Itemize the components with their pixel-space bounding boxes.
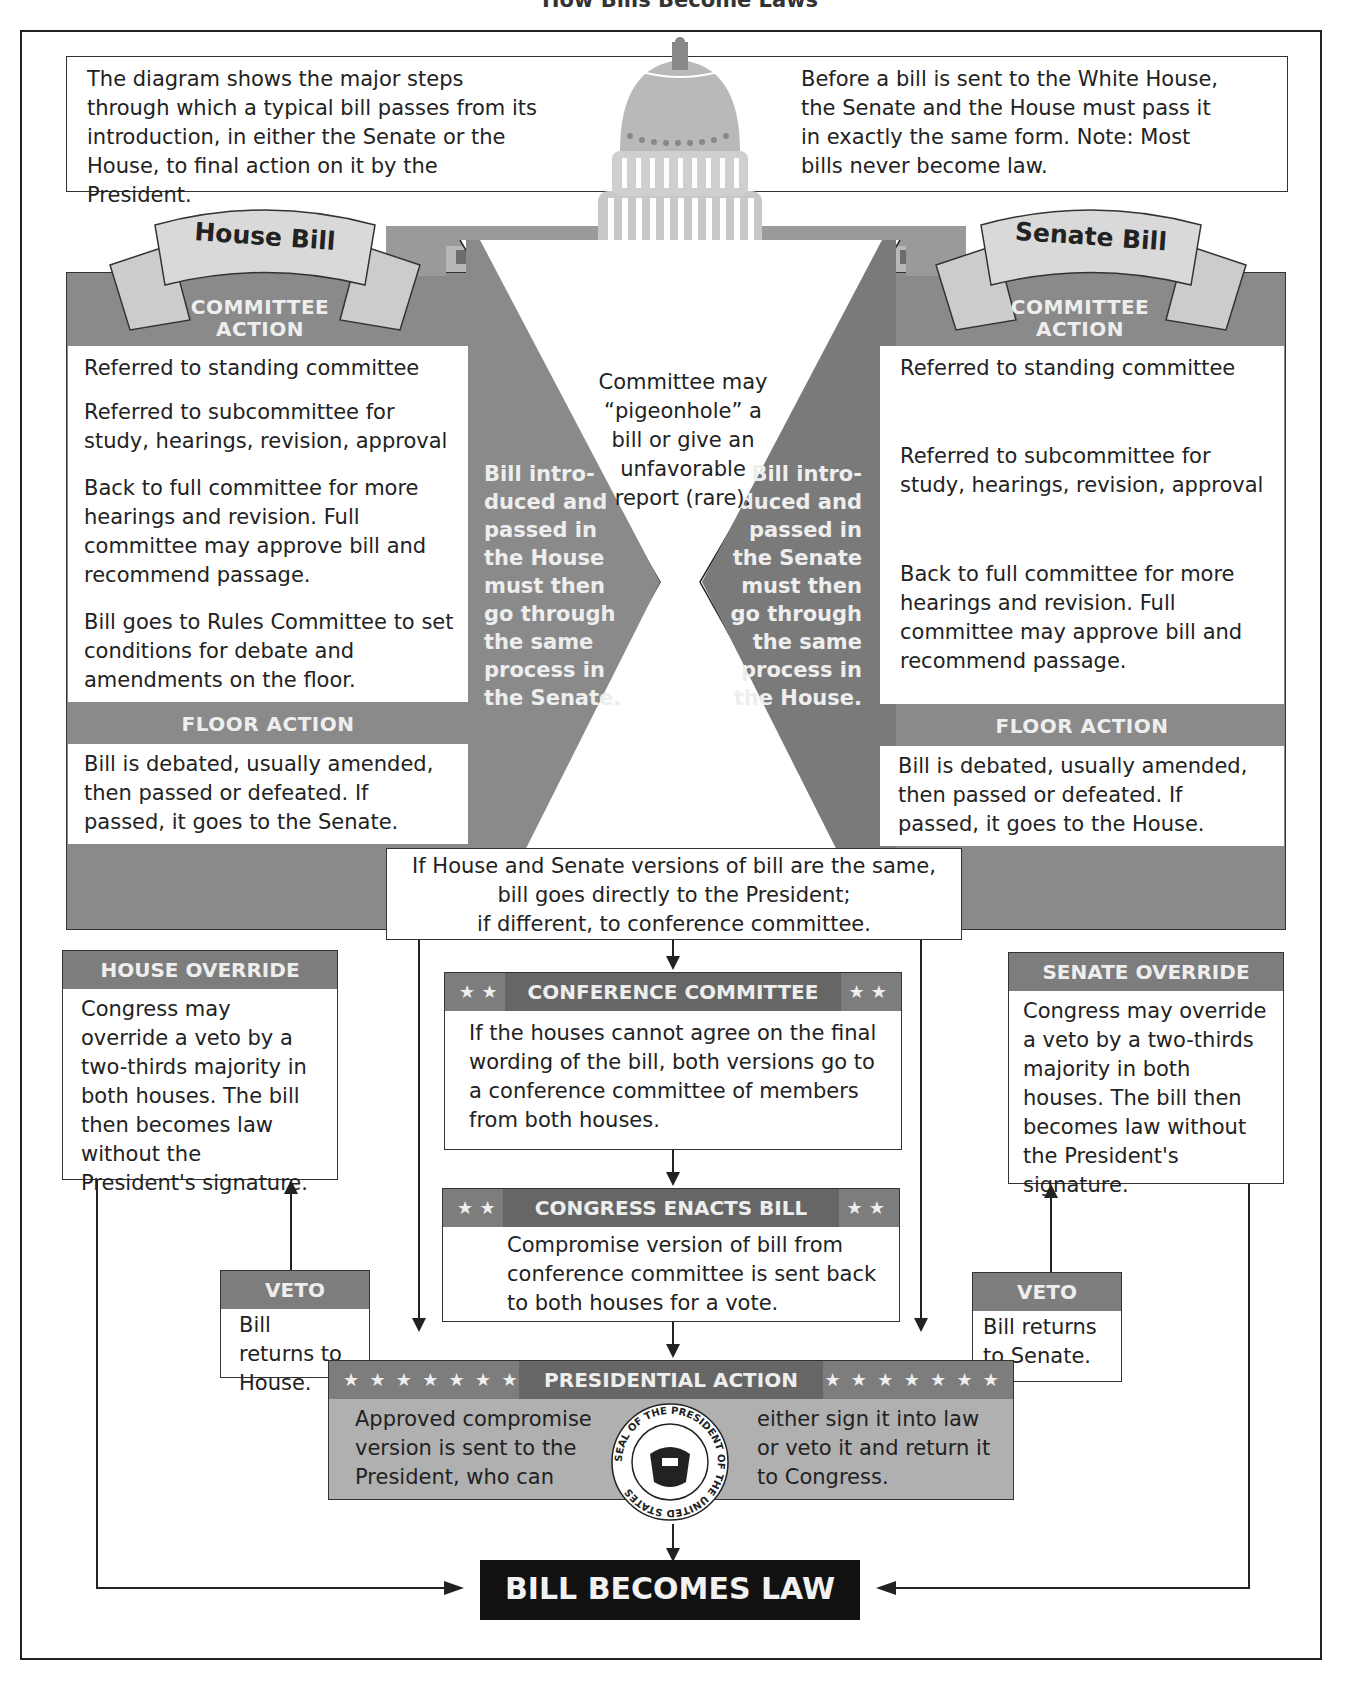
house-override-header: HOUSE OVERRIDE	[63, 951, 337, 989]
senate-step-2: Referred to subcommittee for study, hear…	[900, 442, 1270, 500]
versions-note-line1: If House and Senate versions of bill are…	[387, 852, 961, 881]
conference-committee-header: CONFERENCE COMMITTEE	[528, 980, 819, 1004]
stars-icon: ★ ★ ★ ★ ★ ★ ★	[343, 1361, 520, 1399]
connector-to-final	[672, 1524, 674, 1550]
conference-committee-box: ★ ★ CONFERENCE COMMITTEE ★ ★ If the hous…	[444, 972, 902, 1150]
house-step-4: Bill goes to Rules Committee to set cond…	[84, 608, 459, 695]
house-veto-header: VETO	[221, 1271, 369, 1309]
presidential-seal-icon: SEAL OF THE PRESIDENT OF THE UNITED STAT…	[608, 1400, 732, 1524]
conference-committee-text: If the houses cannot agree on the final …	[469, 1019, 889, 1135]
arrow-down-icon	[666, 1172, 680, 1186]
pigeonhole-note: Committee may “pigeonhole” a bill or giv…	[588, 368, 778, 513]
arrow-right-icon	[444, 1581, 464, 1595]
congress-enacts-box: ★ ★ CONGRESS ENACTS BILL ★ ★ Compromise …	[442, 1188, 900, 1322]
stars-icon: ★ ★ ★ ★ ★ ★ ★	[824, 1361, 1001, 1399]
senate-floor-text: Bill is debated, usually amended, then p…	[880, 746, 1284, 846]
arrow-up-icon	[1044, 1184, 1058, 1198]
presidential-action-header: PRESIDENTIAL ACTION	[544, 1368, 798, 1392]
conference-committee-header-bar: ★ ★ CONFERENCE COMMITTEE ★ ★	[445, 973, 901, 1011]
congress-enacts-header: CONGRESS ENACTS BILL	[535, 1196, 808, 1220]
senate-committee-header-line2: ACTION	[980, 318, 1180, 340]
house-committee-header-line2: ACTION	[160, 318, 360, 340]
senate-floor-header: FLOOR ACTION	[880, 714, 1284, 738]
stars-icon: ★ ★	[457, 1189, 496, 1227]
senate-override-text: Congress may override a veto by a two-th…	[1009, 991, 1283, 1206]
connector-veto-to-override	[1050, 1198, 1052, 1274]
versions-note: If House and Senate versions of bill are…	[386, 848, 962, 940]
connector-house-override-to-law	[96, 1180, 98, 1588]
connector-senate-override-to-law-h	[896, 1587, 1250, 1589]
house-floor-header: FLOOR ACTION	[68, 712, 468, 736]
senate-veto-header: VETO	[973, 1273, 1121, 1311]
versions-note-line3: if different, to conference committee.	[387, 910, 961, 939]
house-committee-header: COMMITTEE ACTION	[160, 296, 360, 340]
stars-icon: ★ ★	[848, 973, 887, 1011]
senate-step-1: Referred to standing committee	[900, 354, 1270, 383]
capitol-foreground	[380, 36, 980, 356]
connector-to-enacts	[672, 1150, 674, 1174]
presidential-action-header-bar: ★ ★ ★ ★ ★ ★ ★ PRESIDENTIAL ACTION ★ ★ ★ …	[329, 1361, 1013, 1399]
senate-committee-header: COMMITTEE ACTION	[980, 296, 1180, 340]
arrow-down-icon	[666, 1344, 680, 1358]
senate-committee-steps: Referred to standing committee Referred …	[880, 346, 1284, 704]
stars-icon: ★ ★	[459, 973, 498, 1011]
connector-left-to-president	[418, 940, 420, 1320]
stars-icon: ★ ★	[846, 1189, 885, 1227]
senate-step-3: Back to full committee for more hearings…	[900, 560, 1270, 676]
presidential-left-text: Approved compromise version is sent to t…	[355, 1405, 605, 1492]
connector-right-to-president	[920, 940, 922, 1320]
senate-override-box: SENATE OVERRIDE Congress may override a …	[1008, 952, 1284, 1184]
house-floor-text: Bill is debated, usually amended, then p…	[68, 744, 468, 844]
bill-becomes-law: BILL BECOMES LAW	[480, 1560, 860, 1620]
house-committee-header-line1: COMMITTEE	[160, 296, 360, 318]
diagram-title: How Bills Become Laws	[0, 0, 1360, 12]
house-step-1: Referred to standing committee	[84, 354, 459, 383]
connector-to-presidential	[672, 1322, 674, 1346]
connector-senate-override-to-law	[1248, 1184, 1250, 1588]
arrow-down-icon	[914, 1318, 928, 1332]
arrow-down-icon	[666, 956, 680, 970]
house-override-box: HOUSE OVERRIDE Congress may override a v…	[62, 950, 338, 1180]
house-override-text: Congress may override a veto by a two-th…	[63, 989, 337, 1204]
presidential-right-text: either sign it into law or veto it and r…	[757, 1405, 1007, 1492]
arrow-down-icon	[412, 1318, 426, 1332]
versions-note-line2: bill goes directly to the President;	[387, 881, 961, 910]
house-committee-steps: Referred to standing committee Referred …	[68, 346, 468, 702]
congress-enacts-text: Compromise version of bill from conferen…	[507, 1231, 887, 1318]
house-step-3: Back to full committee for more hearings…	[84, 474, 459, 590]
arrow-up-icon	[284, 1180, 298, 1194]
connector-house-override-to-law-h	[96, 1587, 446, 1589]
house-step-2: Referred to subcommittee for study, hear…	[84, 398, 459, 456]
senate-committee-header-line1: COMMITTEE	[980, 296, 1180, 318]
congress-enacts-header-bar: ★ ★ CONGRESS ENACTS BILL ★ ★	[443, 1189, 899, 1227]
connector-veto-to-override	[290, 1194, 292, 1272]
senate-override-header: SENATE OVERRIDE	[1009, 953, 1283, 991]
arrow-left-icon	[876, 1581, 896, 1595]
